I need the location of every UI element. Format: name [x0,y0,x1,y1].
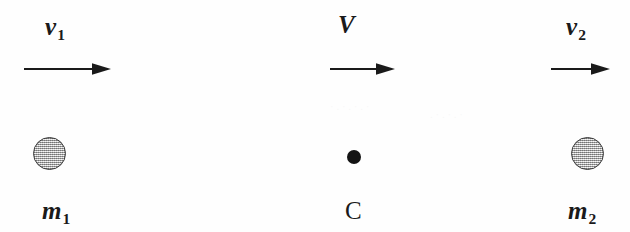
velocity-label-V: V [338,12,355,37]
center-of-mass-label-C: C [345,198,362,223]
mass-subscript-m2: 2 [589,210,597,227]
velocity-symbol-V: V [338,11,355,38]
mass-body-m2 [571,137,604,170]
velocity-symbol-v1: v [45,13,57,40]
center-of-mass-symbol: C [345,197,362,224]
velocity-label-v2: v2 [566,14,585,39]
scan-artifact: . · . · . · [430,108,463,120]
velocity-symbol-v2: v [566,13,578,40]
center-of-mass-point [347,150,361,164]
velocity-subscript-v2: 2 [578,26,586,43]
velocity-arrow-V [330,61,396,77]
scan-artifact: · . · . · . · [330,100,369,112]
velocity-arrow-v2 [551,61,611,77]
physics-diagram: v1 m1 V C v2 m2 · . · . [0,0,630,232]
mass-symbol-m2: m [568,197,588,224]
mass-label-m1: m1 [42,198,70,223]
mass-symbol-m1: m [42,197,62,224]
velocity-subscript-v1: 1 [57,26,65,43]
mass-subscript-m1: 1 [63,210,71,227]
velocity-label-v1: v1 [45,14,64,39]
mass-body-m1 [33,137,66,170]
velocity-arrow-v1 [24,61,112,77]
mass-label-m2: m2 [568,198,596,223]
